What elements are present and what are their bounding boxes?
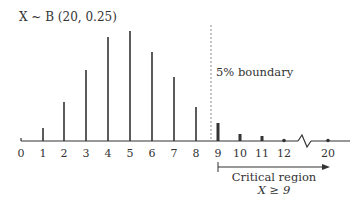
tick-label: 20 <box>321 147 335 160</box>
tick-label: 4 <box>105 147 112 160</box>
tick-label: 8 <box>193 147 200 160</box>
tick-label: 9 <box>215 147 222 160</box>
tick-label: 5 <box>127 147 134 160</box>
tick-label: 0 <box>18 147 25 160</box>
tick-label: 6 <box>149 147 156 160</box>
tick-label: 1 <box>40 147 47 160</box>
critical-region-condition: X ≥ 9 <box>257 183 290 197</box>
tick-label: 10 <box>233 147 247 160</box>
tick-label: 11 <box>255 147 269 160</box>
tick-labels: 0 1 2 3 4 5 6 7 8 9 10 11 12 20 <box>18 147 336 160</box>
boundary-label: 5% boundary <box>216 65 294 79</box>
chart-title: X ~ B (20, 0.25) <box>19 10 117 24</box>
x-axis <box>21 135 350 147</box>
tick-label: 7 <box>171 147 178 160</box>
binomial-distribution-diagram: X ~ B (20, 0.25) 5% boundary 0 1 2 3 4 5… <box>0 0 364 201</box>
bars <box>43 31 262 141</box>
point-20 <box>326 139 330 143</box>
tick-label: 3 <box>83 147 90 160</box>
critical-region-label: Critical region <box>232 170 317 184</box>
tick-label: 2 <box>61 147 68 160</box>
point-12 <box>282 139 286 143</box>
tick-label: 12 <box>277 147 291 160</box>
